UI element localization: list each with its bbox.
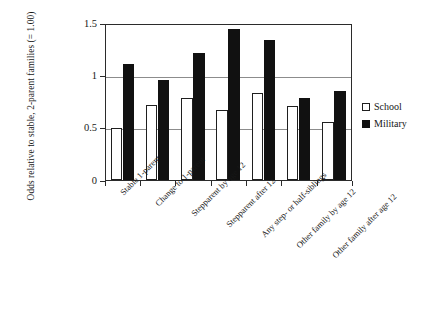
bar-military: [334, 91, 346, 180]
bar-school: [252, 93, 264, 180]
x-tick-mark: [281, 181, 282, 186]
bar-military: [299, 98, 311, 180]
chart-legend: School Military: [362, 99, 440, 133]
bar-military: [158, 80, 170, 180]
bar-military: [264, 40, 276, 180]
bar-school: [111, 128, 123, 180]
plot-area: [105, 24, 352, 181]
y-tick-label-0: 0: [57, 175, 97, 186]
x-tick-mark: [246, 181, 247, 186]
hollow-square-icon: [362, 103, 370, 111]
bar-military: [123, 64, 135, 180]
bar-military: [228, 29, 240, 180]
filled-square-icon: [362, 120, 370, 128]
y-tick-label-0_5: 0.5: [57, 122, 97, 133]
x-tick-mark: [352, 181, 353, 186]
bar-school: [322, 122, 334, 180]
y-axis-title: Odds relative to stable, 2-parent famili…: [20, 6, 36, 206]
y-tick-label-1: 1: [57, 70, 97, 81]
bar-series-container: [106, 25, 351, 180]
x-tick-mark: [105, 181, 106, 186]
legend-item-school: School: [362, 99, 440, 114]
y-axis-title-text: Odds relative to stable, 2-parent famili…: [26, 12, 36, 201]
x-tick-mark: [211, 181, 212, 186]
bar-chart-figure: Odds relative to stable, 2-parent famili…: [0, 0, 442, 312]
bar-school: [216, 110, 228, 180]
y-tick-label-1_5: 1.5: [57, 18, 97, 29]
legend-item-military: Military: [362, 116, 440, 131]
legend-label-school: School: [374, 101, 402, 112]
bar-school: [287, 106, 299, 180]
legend-label-military: Military: [374, 118, 407, 129]
